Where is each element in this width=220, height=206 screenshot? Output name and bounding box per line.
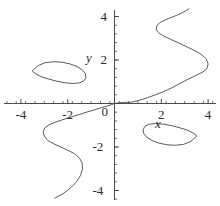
curve-lower-right-loop (143, 124, 196, 146)
x-tick-label-4: 4 (205, 108, 212, 121)
y-tick-label-neg4: -4 (93, 184, 104, 197)
y-tick-label-2: 2 (101, 53, 108, 66)
x-tick-label-neg2: -2 (62, 108, 73, 121)
x-tick-label-neg4: -4 (15, 108, 26, 121)
plot-canvas (0, 0, 220, 206)
x-axis-label: x (155, 117, 161, 130)
origin-label: 0 (102, 105, 109, 118)
curve-upper-left-loop (33, 62, 86, 84)
y-tick-label-neg2: -2 (93, 140, 104, 153)
plot-figure: -4-202442-2-4 y x (0, 0, 220, 206)
y-axis-label: y (86, 51, 92, 64)
minor-tick-marks (7, 17, 213, 200)
y-tick-label-4: 4 (101, 10, 108, 23)
